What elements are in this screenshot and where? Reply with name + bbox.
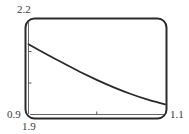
ymax-label: 2.2 bbox=[17, 4, 31, 15]
xmax-label: 1.1 bbox=[170, 109, 184, 120]
plot-area bbox=[0, 0, 189, 134]
xmin-label: 0.9 bbox=[7, 109, 21, 120]
calculator-graph: 2.2 0.9 1.9 1.1 bbox=[0, 0, 189, 134]
screen-frame bbox=[26, 19, 167, 119]
axis-ticks bbox=[29, 52, 97, 115]
data-curve bbox=[29, 44, 166, 104]
ymin-label: 1.9 bbox=[22, 121, 36, 132]
